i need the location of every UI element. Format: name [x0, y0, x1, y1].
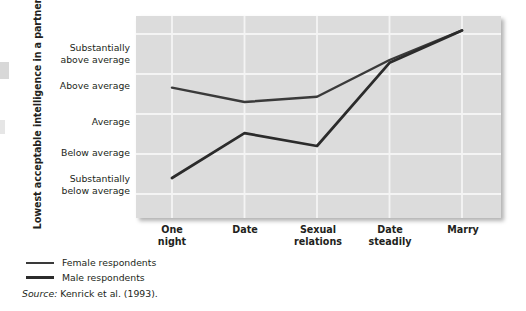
x-axis-tick-labels: One night Date Sexual relations Date ste…: [136, 224, 501, 258]
x-tick-label-marry: Marry: [417, 224, 509, 236]
y-tick-label-below-average: Below average: [48, 147, 130, 159]
vertical-gridlines: [172, 16, 462, 218]
y-tick-label-average: Average: [48, 116, 130, 128]
plot-area: [136, 16, 501, 218]
legend-label-female: Female respondents: [62, 256, 156, 269]
page-edge-artifact-2: [0, 120, 5, 134]
source-prefix: Source:: [22, 288, 57, 299]
source-text: Kenrick et al. (1993).: [60, 288, 157, 299]
chart-legend: Female respondents Male respondents: [26, 256, 286, 286]
legend-item-male: Male respondents: [26, 271, 286, 285]
y-axis-title: Lowest acceptable intelligence in a part…: [32, 0, 45, 229]
plot-svg: [136, 16, 501, 218]
figure-line-chart: Lowest acceptable intelligence in a part…: [0, 0, 526, 311]
horizontal-gridlines: [136, 34, 501, 194]
legend-label-male: Male respondents: [62, 271, 145, 284]
legend-item-female: Female respondents: [26, 256, 286, 270]
line-swatch-female-icon: [26, 262, 54, 264]
y-tick-label-above-average: Above average: [48, 80, 130, 92]
y-axis-tick-labels: Substantially above average Above averag…: [48, 16, 130, 218]
y-tick-label-substantially-below-average: Substantially below average: [48, 173, 130, 196]
line-swatch-male-icon: [26, 276, 54, 279]
page-edge-artifact: [0, 62, 9, 79]
y-tick-label-substantially-above-average: Substantially above average: [48, 42, 130, 65]
source-note: Source: Kenrick et al. (1993).: [22, 288, 158, 299]
